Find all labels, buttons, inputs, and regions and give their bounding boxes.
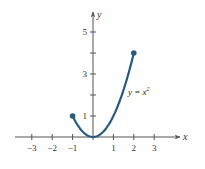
y-tick-label: 1 xyxy=(83,111,88,121)
y-tick-label: 5 xyxy=(83,27,88,37)
x-tick-label: 2 xyxy=(132,143,137,153)
x-tick-label: −3 xyxy=(27,143,37,153)
x-tick-label: 1 xyxy=(111,143,116,153)
parabola-curve xyxy=(73,53,134,137)
y-ticks: 135 xyxy=(83,27,97,121)
function-plot: −3−2−1123 135 x y y = x2 xyxy=(0,0,205,169)
endpoint-dot xyxy=(131,50,137,56)
endpoint-markers xyxy=(70,50,137,119)
endpoint-dot xyxy=(70,113,76,119)
y-tick-label: 3 xyxy=(83,69,88,79)
y-axis-label: y xyxy=(96,9,102,20)
curve-label: y = x2 xyxy=(127,86,150,97)
x-tick-label: −1 xyxy=(68,143,78,153)
x-tick-label: 3 xyxy=(152,143,157,153)
x-tick-label: −2 xyxy=(47,143,57,153)
x-axis-label: x xyxy=(182,131,188,142)
